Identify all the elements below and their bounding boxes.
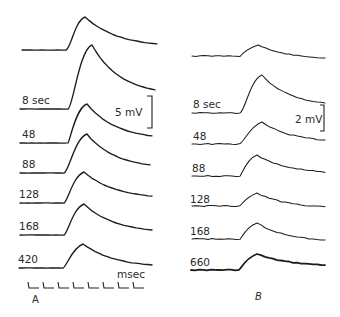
response-trace <box>19 244 152 268</box>
response-trace <box>192 45 325 58</box>
trace-label: 8 sec <box>193 98 221 110</box>
time-tick <box>103 282 114 288</box>
time-tick <box>73 282 84 288</box>
time-tick <box>88 282 99 288</box>
trace-label: 128 <box>190 193 210 205</box>
scale-bar-label-b: 2 mV <box>295 113 323 125</box>
time-marker-label: msec <box>117 268 145 280</box>
figure: 8 sec 48 88 128 168 420 5 mV msec A 8 se… <box>0 0 340 317</box>
response-trace <box>192 122 325 144</box>
response-trace <box>20 204 152 235</box>
trace-label: 420 <box>18 253 38 265</box>
response-trace <box>191 254 325 270</box>
panel-b: 8 sec 48 88 128 168 660 2 mV B <box>190 45 325 302</box>
trace-label: 48 <box>193 130 206 142</box>
panel-a-traces <box>19 17 157 268</box>
scale-bar-a <box>147 96 152 128</box>
time-tick <box>28 282 39 288</box>
panel-label-a: A <box>32 294 39 305</box>
scale-bar-label-a: 5 mV <box>115 106 143 118</box>
panel-a: 8 sec 48 88 128 168 420 5 mV msec A <box>18 17 157 305</box>
figure-canvas: 8 sec 48 88 128 168 420 5 mV msec A 8 se… <box>0 0 340 317</box>
time-tick <box>43 282 54 288</box>
time-tick <box>133 282 144 288</box>
trace-label: 168 <box>190 225 210 237</box>
panel-b-traces <box>191 45 325 270</box>
trace-label: 8 sec <box>22 94 50 106</box>
response-trace <box>20 172 152 203</box>
trace-label: 88 <box>192 162 205 174</box>
time-tick <box>58 282 69 288</box>
time-marker-ticks <box>28 282 144 288</box>
time-tick <box>118 282 129 288</box>
response-trace <box>192 223 325 240</box>
response-trace <box>192 155 325 176</box>
panel-label-b: B <box>255 291 262 302</box>
response-trace <box>192 193 325 207</box>
trace-label: 168 <box>19 220 39 232</box>
trace-label: 88 <box>22 158 35 170</box>
trace-label: 128 <box>19 188 39 200</box>
trace-label: 660 <box>190 256 210 268</box>
trace-label: 48 <box>22 128 35 140</box>
response-trace <box>22 17 157 50</box>
response-trace <box>20 134 150 173</box>
